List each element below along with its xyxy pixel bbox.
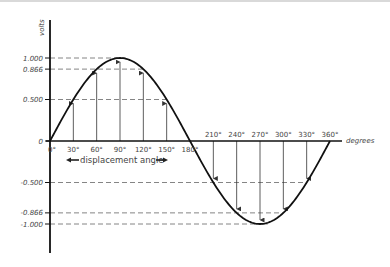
x-tick-label: 120° bbox=[135, 146, 152, 154]
sine-wave-diagram: 1.0000.8660.5000-0.500-0.866-1.000 0°30°… bbox=[0, 0, 390, 267]
x-tick-label: 30° bbox=[67, 146, 79, 154]
y-axis-label: volts bbox=[38, 19, 46, 36]
x-tick-label: 240° bbox=[228, 131, 245, 139]
right-arrowhead-icon bbox=[163, 158, 168, 163]
x-tick-label: 210° bbox=[205, 131, 222, 139]
x-tick-label: 180° bbox=[182, 146, 199, 154]
y-tick-label: 0 bbox=[39, 138, 44, 146]
y-tick-label: 0.500 bbox=[23, 96, 44, 104]
y-tick-label: -1.000 bbox=[20, 221, 43, 229]
y-tick-label: -0.500 bbox=[20, 179, 43, 187]
displacement-angle-annotation: displacement angle bbox=[66, 155, 168, 165]
x-tick-label: 330° bbox=[298, 131, 315, 139]
y-tick-label: 1.000 bbox=[23, 55, 44, 63]
x-tick-label: 300° bbox=[275, 131, 292, 139]
y-tick-label: 0.866 bbox=[23, 66, 44, 74]
x-axis-ticks: 0°30°60°90°120°150°180°210°240°270°300°3… bbox=[48, 131, 338, 154]
x-axis-label: degrees bbox=[346, 137, 375, 145]
y-axis-ticks: 1.0000.8660.5000-0.500-0.866-1.000 bbox=[20, 55, 50, 229]
x-tick-label: 60° bbox=[90, 146, 102, 154]
x-tick-label: 90° bbox=[114, 146, 126, 154]
x-tick-label: 150° bbox=[158, 146, 175, 154]
displacement-angle-label: displacement angle bbox=[80, 155, 164, 165]
x-tick-label: 360° bbox=[322, 131, 339, 139]
x-tick-label: 270° bbox=[252, 131, 269, 139]
x-tick-label: 0° bbox=[48, 146, 56, 154]
left-arrowhead-icon bbox=[66, 158, 71, 163]
y-tick-label: -0.866 bbox=[20, 209, 43, 217]
